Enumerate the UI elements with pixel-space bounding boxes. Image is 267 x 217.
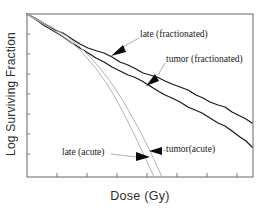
survival-curves-plot xyxy=(0,0,267,217)
annotation-leader-line xyxy=(158,63,165,75)
label-tumor-fractionated: tumor (fractionated) xyxy=(166,54,243,64)
label-tumor-acute: tumor(acute) xyxy=(166,144,215,154)
figure-canvas: late (fractionated) tumor (fractionated)… xyxy=(0,0,267,217)
y-axis-title: Log Surviving Fraction xyxy=(4,19,18,169)
label-late-fractionated: late (fractionated) xyxy=(140,29,208,39)
x-axis-title: Dose (Gy) xyxy=(27,189,253,203)
label-late-acute: late (acute) xyxy=(62,147,104,157)
annotation-leader-line xyxy=(111,154,136,157)
annotation-leader-line xyxy=(123,38,139,47)
